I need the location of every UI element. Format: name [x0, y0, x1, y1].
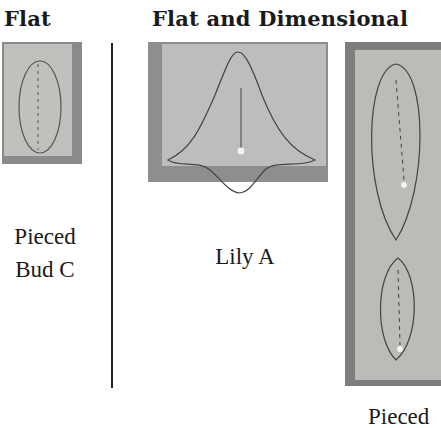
caption-pieced-partial: Pieced — [368, 400, 441, 428]
